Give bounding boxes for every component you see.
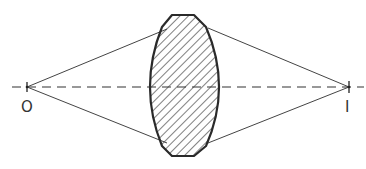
object-label: O	[21, 98, 33, 116]
object-point	[26, 82, 29, 92]
biconvex-lens	[150, 15, 219, 156]
lens-diagram: O I	[0, 0, 366, 169]
ray-upper-incident	[27, 29, 167, 87]
ray-lower-refracted	[208, 87, 349, 143]
ray-upper-refracted	[208, 28, 349, 87]
image-label: I	[345, 98, 349, 116]
ray-lower-incident	[27, 87, 167, 143]
image-point	[348, 81, 351, 93]
